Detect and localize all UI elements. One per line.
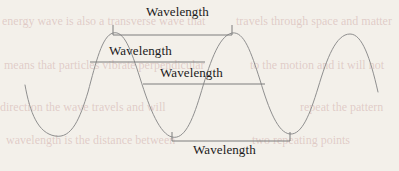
wavelength-figure: energy wave is also a transverse wave th…	[0, 0, 399, 171]
annotation-bottom-bracket	[172, 132, 290, 141]
wavelength-label-bottom: Wavelength	[193, 142, 256, 158]
top-bracket-path	[113, 25, 232, 35]
wavelength-label-third: Wavelength	[160, 65, 223, 81]
wavelength-label-second: Wavelength	[109, 43, 172, 59]
bottom-bracket-path	[172, 132, 290, 141]
annotation-top-bracket	[113, 25, 232, 35]
wavelength-label-top: Wavelength	[146, 4, 209, 20]
wave-curve	[25, 33, 378, 138]
